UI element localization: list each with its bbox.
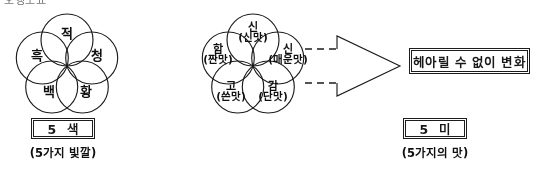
five-colors-caption: (5가지 빛깔) bbox=[30, 144, 97, 160]
five-tastes-box-label: 5 미 bbox=[405, 120, 465, 137]
rosette-circle-bottom-left bbox=[26, 61, 78, 113]
five-tastes-box: 5 미 bbox=[403, 118, 467, 139]
rosette-circle-bottom-right bbox=[56, 61, 108, 113]
diagram-canvas: 오행도표 적 청 황 백 흑 bbox=[0, 0, 537, 170]
rosette-circle-left bbox=[202, 32, 254, 84]
transformation-arrow bbox=[305, 28, 410, 104]
rosette-circle-right bbox=[66, 32, 118, 84]
result-box-label: 헤아릴 수 없이 변화 bbox=[411, 50, 528, 72]
rosette-circle-bottom-left bbox=[212, 61, 264, 113]
rosette-circle-bottom-right bbox=[242, 61, 294, 113]
five-colors-box: 5 색 bbox=[31, 118, 95, 139]
five-tastes-caption: (5가지의 맛) bbox=[402, 144, 469, 160]
rosette-circle-right bbox=[252, 32, 304, 84]
rosette-circle-top bbox=[41, 14, 93, 66]
rosette-circle-top bbox=[227, 14, 279, 66]
arrow-outline-shape bbox=[337, 36, 400, 96]
rosette-circle-left bbox=[16, 32, 68, 84]
clipped-header-text: 오행도표 bbox=[4, 0, 46, 7]
five-colors-box-label: 5 색 bbox=[33, 120, 93, 137]
five-colors-rosette: 적 청 황 백 흑 bbox=[12, 8, 138, 120]
result-box: 헤아릴 수 없이 변화 bbox=[409, 48, 530, 74]
